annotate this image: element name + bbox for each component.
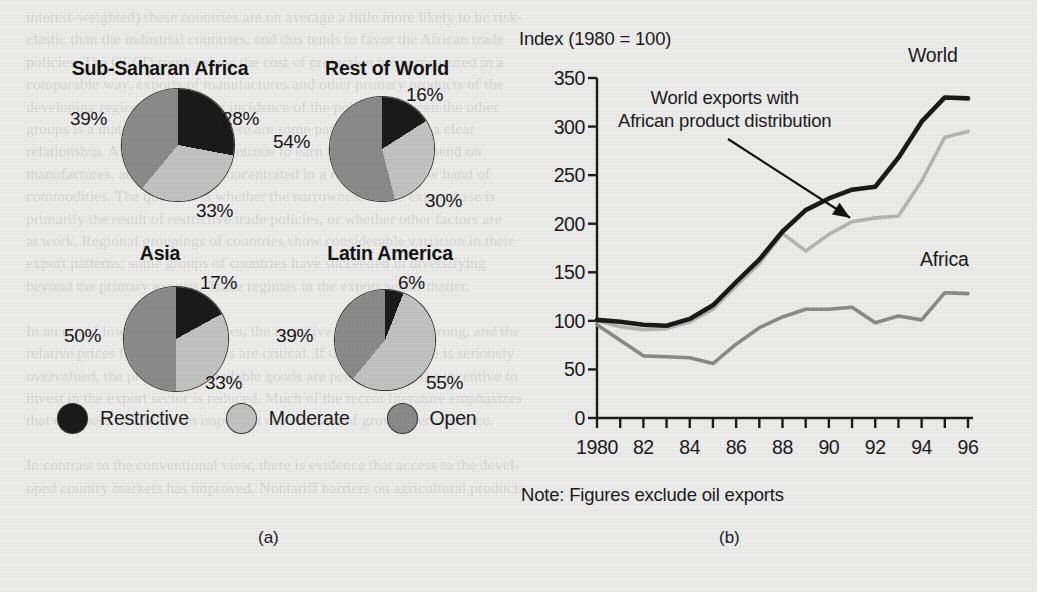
chart-annotation: World exports with African product distr… bbox=[618, 86, 831, 132]
chart-note: Note: Figures exclude oil exports bbox=[521, 484, 784, 506]
pie-pct-ssa-moderate: 33% bbox=[196, 200, 233, 222]
legend-swatch-moderate bbox=[227, 404, 256, 433]
legend-item-open: Open bbox=[388, 404, 477, 433]
pie-pct-la-open: 39% bbox=[276, 325, 313, 347]
pie-pct-row-open: 54% bbox=[273, 131, 310, 153]
legend-label-restrictive: Restrictive bbox=[100, 407, 189, 430]
pie-slices-sub-saharan-africa bbox=[122, 89, 234, 201]
x-tick-label: 90 bbox=[818, 436, 839, 459]
x-tick-label: 82 bbox=[633, 436, 654, 459]
chart-plot-area: 050100150200250300350 198082848688909294… bbox=[500, 0, 1037, 480]
pie-title-sub-saharan-africa: Sub-Saharan Africa bbox=[40, 57, 280, 80]
y-tick-label: 350 bbox=[525, 67, 585, 90]
panel-a-pie-charts: Sub-Saharan Africa Rest of World Asia La… bbox=[0, 0, 500, 592]
series-label-africa: Africa bbox=[920, 248, 969, 271]
pie-pct-asia-open: 50% bbox=[64, 325, 101, 347]
pie-pct-row-restrictive: 16% bbox=[406, 84, 443, 106]
pie-slices-rest-of-world bbox=[330, 97, 434, 201]
x-tick-label: 96 bbox=[958, 436, 979, 459]
y-tick-label: 100 bbox=[525, 309, 585, 332]
pie-title-asia: Asia bbox=[100, 242, 220, 265]
x-tick-label: 1980 bbox=[576, 436, 618, 459]
figure-page: interest-weighted) these countries are o… bbox=[0, 0, 1037, 592]
pie-pct-row-moderate: 30% bbox=[425, 190, 462, 212]
legend-item-restrictive: Restrictive bbox=[58, 404, 189, 433]
y-tick-label: 200 bbox=[525, 212, 585, 235]
chart-annotation-line1: World exports with bbox=[651, 87, 799, 108]
legend-swatch-restrictive bbox=[58, 404, 87, 433]
pie-title-latin-america: Latin America bbox=[300, 242, 480, 265]
pie-slices-latin-america bbox=[335, 290, 435, 390]
pie-chart-sub-saharan-africa bbox=[122, 89, 234, 201]
y-tick-label: 0 bbox=[525, 407, 585, 430]
panel-a-caption: (a) bbox=[258, 528, 279, 548]
x-tick-label: 94 bbox=[911, 436, 932, 459]
pie-chart-latin-america bbox=[335, 290, 435, 390]
x-tick-label: 92 bbox=[865, 436, 886, 459]
legend-label-open: Open bbox=[430, 407, 477, 430]
x-tick-label: 86 bbox=[726, 436, 747, 459]
pie-pct-ssa-open: 39% bbox=[70, 108, 107, 130]
pie-title-rest-of-world: Rest of World bbox=[292, 57, 482, 80]
pie-pct-asia-moderate: 33% bbox=[205, 372, 242, 394]
y-tick-label: 300 bbox=[525, 115, 585, 138]
y-tick-label: 150 bbox=[525, 261, 585, 284]
legend-swatch-open bbox=[388, 404, 417, 433]
x-tick-label: 84 bbox=[679, 436, 700, 459]
y-tick-label: 250 bbox=[525, 164, 585, 187]
x-tick-label: 88 bbox=[772, 436, 793, 459]
legend-item-moderate: Moderate bbox=[227, 404, 350, 433]
pie-legend: Restrictive Moderate Open bbox=[58, 404, 477, 433]
pie-pct-asia-restrictive: 17% bbox=[200, 272, 237, 294]
panel-b-caption: (b) bbox=[719, 528, 740, 548]
pie-pct-la-restrictive: 6% bbox=[398, 272, 425, 294]
pie-chart-rest-of-world bbox=[330, 97, 434, 201]
pie-pct-la-moderate: 55% bbox=[426, 372, 463, 394]
series-label-world: World bbox=[908, 44, 958, 67]
panel-b-line-chart: Index (1980 = 100) 050100150200250300350… bbox=[500, 0, 1037, 592]
legend-label-moderate: Moderate bbox=[269, 407, 350, 430]
pie-pct-ssa-restrictive: 28% bbox=[222, 108, 259, 130]
chart-annotation-line2: African product distribution bbox=[618, 110, 831, 131]
y-tick-label: 50 bbox=[525, 358, 585, 381]
